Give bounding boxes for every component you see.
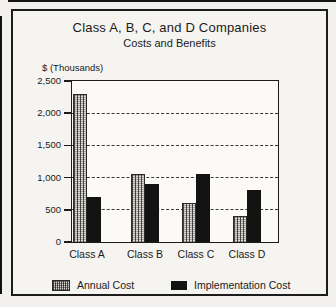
- y-axis-tick-label: 2,500: [19, 76, 61, 86]
- legend-item-implementation-cost: Implementation Cost: [171, 279, 290, 291]
- chart-frame: Class A, B, C, and D Companies Costs and…: [11, 9, 328, 296]
- bar-annual-cost-class-a: [73, 94, 87, 242]
- annual-cost-swatch-icon: [52, 280, 70, 291]
- bar-annual-cost-class-d: [233, 216, 247, 242]
- y-axis-label: $ (Thousands): [42, 62, 103, 73]
- legend: Annual Cost Implementation Cost: [13, 279, 326, 293]
- scan-artifact-top-edge: [8, 0, 336, 2]
- gridline-1500: [72, 145, 278, 146]
- chart-subtitle: Costs and Benefits: [13, 37, 326, 49]
- y-axis-tick-1000: [64, 177, 71, 179]
- gridline-1000: [72, 177, 278, 178]
- bar-group-class-b: [131, 174, 159, 242]
- bar-group-class-a: [73, 94, 101, 242]
- bar-implementation-cost-class-c: [196, 174, 210, 242]
- y-axis-tick-label: 1,000: [19, 173, 61, 183]
- implementation-cost-swatch-icon: [171, 281, 187, 290]
- y-axis-tick-label: 500: [19, 205, 61, 215]
- bar-group-class-d: [233, 190, 261, 242]
- y-axis-tick-2000: [64, 112, 71, 114]
- scan-artifact-left-edge: [0, 16, 2, 294]
- x-category-label-class-d: Class D: [215, 248, 279, 260]
- bar-implementation-cost-class-a: [87, 197, 101, 242]
- x-category-label-class-a: Class A: [55, 248, 119, 260]
- y-axis-tick-1500: [64, 145, 71, 147]
- bar-annual-cost-class-c: [182, 203, 196, 242]
- y-axis-tick-0: [64, 241, 71, 243]
- legend-label-implementation-cost: Implementation Cost: [194, 279, 290, 291]
- y-axis-tick-2500: [64, 80, 71, 82]
- legend-label-annual-cost: Annual Cost: [77, 279, 134, 291]
- bar-annual-cost-class-b: [131, 174, 145, 242]
- y-axis-tick-500: [64, 209, 71, 211]
- legend-item-annual-cost: Annual Cost: [52, 279, 134, 291]
- bar-implementation-cost-class-d: [247, 190, 261, 242]
- chart-title: Class A, B, C, and D Companies: [13, 20, 326, 35]
- y-axis-tick-label: 2,000: [19, 108, 61, 118]
- bar-group-class-c: [182, 174, 210, 242]
- y-axis-tick-label: 0: [19, 237, 61, 247]
- gridline-2000: [72, 113, 278, 114]
- bar-implementation-cost-class-b: [145, 184, 159, 242]
- plot-area: 05001,0001,5002,0002,500Class AClass BCl…: [71, 80, 279, 243]
- y-axis-tick-label: 1,500: [19, 140, 61, 150]
